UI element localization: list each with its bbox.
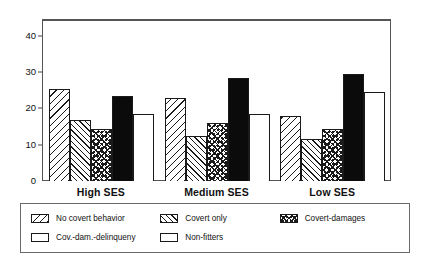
bars-layer bbox=[43, 20, 390, 181]
bar-low-ses-non-fitters bbox=[364, 92, 385, 181]
legend-item-no-covert-behavior: No covert behavior bbox=[31, 209, 160, 228]
bar-high-ses-covert-damages bbox=[91, 129, 112, 181]
bar-medium-ses-covert-damages bbox=[207, 123, 228, 181]
legend-item-non-fitters: Non-fitters bbox=[160, 228, 279, 247]
bar-high-ses-non-fitters bbox=[133, 114, 154, 181]
x-axis: High SES Medium SES Low SES bbox=[43, 186, 390, 198]
x-tick-label-low-ses: Low SES bbox=[274, 186, 390, 198]
legend-label-non-fitters: Non-fitters bbox=[185, 233, 223, 242]
bar-medium-ses-cov-dam-delinqueny bbox=[228, 78, 249, 181]
bar-group-high-ses bbox=[43, 20, 159, 181]
x-tick-label-high-ses: High SES bbox=[43, 186, 159, 198]
bar-high-ses-cov-dam-delinqueny bbox=[112, 96, 133, 181]
bar-low-ses-cov-dam-delinqueny bbox=[343, 74, 364, 181]
y-tick-label-30: 30 bbox=[12, 67, 36, 77]
y-tick-label-40: 40 bbox=[12, 31, 36, 41]
legend-item-covert-only: Covert only bbox=[160, 209, 279, 228]
bar-group-medium-ses bbox=[159, 20, 275, 181]
bar-medium-ses-non-fitters bbox=[249, 114, 270, 181]
legend-item-covert-damages: Covert-damages bbox=[280, 209, 409, 228]
legend-label-covert-only: Covert only bbox=[185, 214, 226, 223]
bar-group-low-ses bbox=[274, 20, 390, 181]
x-tick-label-medium-ses: Medium SES bbox=[159, 186, 275, 198]
bar-chart-figure: 40 30 20 10 0 bbox=[0, 0, 427, 265]
bar-low-ses-covert-only bbox=[301, 139, 322, 181]
legend-row-1: No covert behavior Covert only Covert-da… bbox=[31, 209, 409, 228]
legend-label-covert-damages: Covert-damages bbox=[305, 214, 366, 223]
bar-high-ses-no-covert-behavior bbox=[49, 89, 70, 181]
legend-row-2: Cov.-dam.-delinqueny Non-fitters bbox=[31, 228, 409, 247]
bar-low-ses-covert-damages bbox=[322, 129, 343, 181]
y-tick-label-0: 0 bbox=[12, 176, 36, 186]
legend-swatch-covert-damages-icon bbox=[280, 214, 298, 223]
bar-high-ses-covert-only bbox=[70, 120, 91, 182]
bar-low-ses-no-covert-behavior bbox=[280, 116, 301, 181]
y-tick-label-20: 20 bbox=[12, 103, 36, 113]
legend-swatch-non-fitters-icon bbox=[160, 233, 178, 242]
legend-swatch-no-covert-behavior-icon bbox=[31, 214, 49, 223]
bar-medium-ses-covert-only bbox=[186, 136, 207, 181]
chart-legend: No covert behavior Covert only Covert-da… bbox=[20, 203, 410, 253]
legend-label-cov-dam-delinqueny: Cov.-dam.-delinqueny bbox=[56, 233, 136, 242]
bar-medium-ses-no-covert-behavior bbox=[165, 98, 186, 181]
legend-item-cov-dam-delinqueny: Cov.-dam.-delinqueny bbox=[31, 228, 160, 247]
legend-label-no-covert-behavior: No covert behavior bbox=[56, 214, 125, 223]
y-tick-label-10: 10 bbox=[12, 140, 36, 150]
legend-item-empty-slot bbox=[280, 228, 409, 247]
legend-swatch-covert-only-icon bbox=[160, 214, 178, 223]
legend-swatch-cov-dam-delinqueny-icon bbox=[31, 233, 49, 242]
